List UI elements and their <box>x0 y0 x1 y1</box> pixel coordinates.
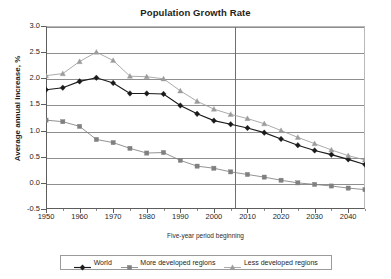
data-point-marker <box>195 111 200 117</box>
x-tick-label: 2020 <box>266 212 296 221</box>
data-point-marker <box>46 118 48 122</box>
chart-title: Population Growth Rate <box>0 7 391 18</box>
data-point-marker <box>262 175 266 179</box>
data-point-marker <box>77 79 82 85</box>
y-tick-mark <box>41 131 46 132</box>
x-tick-label: 2040 <box>333 212 363 221</box>
data-point-marker <box>111 58 116 63</box>
data-point-marker <box>94 49 99 54</box>
legend-entry-more-developed-regions[interactable]: More developed regions <box>121 258 216 267</box>
y-tick-mark <box>41 157 46 158</box>
y-tick-label: 1.0 <box>12 126 40 135</box>
legend-label: World <box>94 259 112 266</box>
data-point-marker <box>279 178 283 182</box>
data-point-marker <box>245 125 250 131</box>
series-line <box>46 120 365 190</box>
data-point-marker <box>363 188 365 192</box>
series-line <box>46 52 365 160</box>
data-point-marker <box>144 91 149 97</box>
y-tick-label: 1.5 <box>12 99 40 108</box>
series-less-developed-regions <box>46 49 365 162</box>
data-point-marker <box>329 152 334 158</box>
data-point-marker <box>362 162 365 168</box>
data-point-marker <box>128 146 132 150</box>
data-point-marker <box>60 85 65 91</box>
data-point-marker <box>229 170 233 174</box>
data-point-marker <box>296 181 300 185</box>
y-tick-label: 2.0 <box>12 73 40 82</box>
x-tick-label: 1950 <box>31 212 61 221</box>
x-tick-label: 1960 <box>65 212 95 221</box>
data-point-marker <box>178 103 183 109</box>
legend-entry-world[interactable]: World <box>74 258 112 267</box>
data-point-marker <box>161 91 166 97</box>
series-line <box>46 78 365 165</box>
data-point-marker <box>212 166 216 170</box>
y-tick-mark <box>41 52 46 53</box>
x-tick-mark-minor <box>197 209 198 211</box>
y-tick-mark <box>41 78 46 79</box>
y-tick-mark <box>41 104 46 105</box>
x-tick-label: 2000 <box>199 212 229 221</box>
data-point-marker <box>161 150 165 154</box>
data-point-marker <box>46 87 49 93</box>
data-point-marker <box>94 137 98 141</box>
data-point-marker <box>346 186 350 190</box>
x-tick-mark-minor <box>63 209 64 211</box>
x-tick-label: 1990 <box>165 212 195 221</box>
data-point-marker <box>178 158 182 162</box>
x-tick-mark-minor <box>365 209 366 211</box>
series-svg <box>46 26 365 209</box>
legend-diamond-marker-icon <box>74 258 91 267</box>
y-tick-label: 0.5 <box>12 152 40 161</box>
y-tick-label: 3.0 <box>12 21 40 30</box>
data-point-marker <box>278 136 283 142</box>
x-tick-mark-minor <box>96 209 97 211</box>
y-tick-label: 0.0 <box>12 178 40 187</box>
data-point-marker <box>313 182 317 186</box>
x-tick-label: 2010 <box>232 212 262 221</box>
legend-label: Less developed regions <box>244 259 318 266</box>
data-point-marker <box>211 106 216 111</box>
data-point-marker <box>262 130 267 136</box>
legend-square-marker-icon <box>121 258 138 267</box>
x-tick-label: 1980 <box>132 212 162 221</box>
y-tick-mark <box>41 183 46 184</box>
x-tick-mark-minor <box>164 209 165 211</box>
data-point-marker <box>61 120 65 124</box>
data-point-marker <box>228 121 233 127</box>
x-tick-mark-minor <box>130 209 131 211</box>
x-tick-label: 2030 <box>300 212 330 221</box>
data-point-marker <box>295 142 300 148</box>
x-tick-mark-minor <box>298 209 299 211</box>
data-point-marker <box>94 75 99 81</box>
legend-label: More developed regions <box>140 259 215 266</box>
series-layer <box>46 26 365 209</box>
x-tick-mark-minor <box>231 209 232 211</box>
data-point-marker <box>211 118 216 124</box>
y-tick-mark <box>41 26 46 27</box>
data-point-marker <box>178 88 183 93</box>
x-tick-mark-minor <box>331 209 332 211</box>
x-tick-mark-minor <box>264 209 265 211</box>
series-more-developed-regions <box>46 118 365 192</box>
data-point-marker <box>77 124 81 128</box>
data-point-marker <box>77 59 82 64</box>
data-point-marker <box>111 80 116 86</box>
data-point-marker <box>111 140 115 144</box>
legend-entry-less-developed-regions[interactable]: Less developed regions <box>224 258 317 267</box>
chart-legend: WorldMore developed regionsLess develope… <box>60 255 332 270</box>
data-point-marker <box>127 91 132 97</box>
legend-triangle-marker-icon <box>224 258 241 267</box>
data-point-marker <box>60 71 65 76</box>
series-world <box>46 75 365 167</box>
data-point-marker <box>195 99 200 104</box>
data-point-marker <box>312 148 317 154</box>
data-point-marker <box>245 172 249 176</box>
x-axis-title: Five-year period beginning <box>46 232 365 239</box>
data-point-marker <box>195 164 199 168</box>
data-point-marker <box>329 184 333 188</box>
population-growth-rate-chart: Population Growth Rate Average annual in… <box>0 0 391 279</box>
data-point-marker <box>145 151 149 155</box>
y-tick-label: 2.5 <box>12 47 40 56</box>
